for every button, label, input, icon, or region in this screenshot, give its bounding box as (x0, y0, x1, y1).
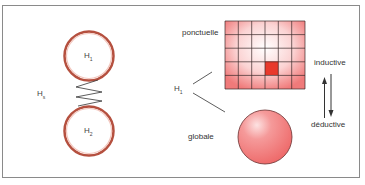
label-inductive: inductive (314, 58, 346, 67)
label-h2: H2 (84, 126, 93, 137)
spring-icon (76, 80, 102, 106)
branch-line-top (193, 72, 212, 84)
inductive-arrow-icon (322, 77, 327, 118)
label-hs: Hs (37, 89, 45, 100)
label-h1-top: H1 (84, 51, 93, 62)
label-deductive: déductive (311, 120, 345, 129)
label-ponctuelle: ponctuelle (182, 28, 218, 37)
grid-highlight-cell (265, 61, 278, 75)
label-h1-source: H1 (174, 84, 183, 95)
globale-sphere (238, 110, 292, 164)
branch-line-bottom (193, 93, 225, 112)
ponctuelle-grid (225, 21, 305, 89)
deductive-arrow-icon (329, 74, 334, 117)
label-globale: globale (188, 132, 214, 141)
